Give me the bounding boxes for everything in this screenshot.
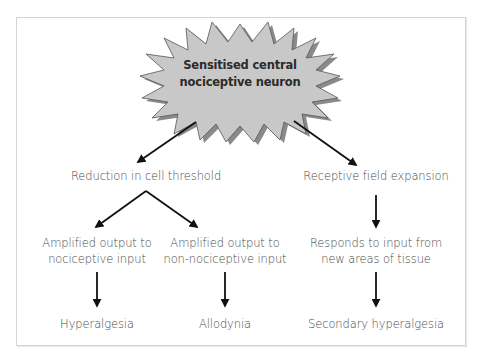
node-secondary-hyperalgesia: Secondary hyperalgesia (308, 316, 444, 332)
node-label-line-1: Responds to input from (310, 235, 442, 251)
root-node-label: Sensitised central nociceptive neuron (180, 57, 301, 91)
arrow-icon (294, 121, 356, 165)
root-line-1: Sensitised central (180, 57, 301, 74)
node-amplified-nociceptive: Amplified output to nociceptive input (42, 235, 151, 267)
node-label: Hyperalgesia (60, 316, 134, 332)
node-label-line-2: non-nociceptive input (163, 251, 286, 267)
arrow-icon (146, 191, 197, 227)
node-label: Secondary hyperalgesia (308, 316, 444, 332)
node-amplified-non-nociceptive: Amplified output to non-nociceptive inpu… (163, 235, 286, 267)
node-label-line-1: Amplified output to (42, 235, 151, 251)
arrow-icon (138, 122, 196, 162)
node-label-line-2: new areas of tissue (310, 251, 442, 267)
node-hyperalgesia: Hyperalgesia (60, 316, 134, 332)
node-responds-new-areas: Responds to input from new areas of tiss… (310, 235, 442, 267)
root-line-2: nociceptive neuron (180, 74, 301, 91)
node-label: Receptive field expansion (303, 168, 448, 184)
node-label: Reduction in cell threshold (71, 168, 221, 184)
node-reduction-threshold: Reduction in cell threshold (71, 168, 221, 184)
arrow-icon (96, 191, 146, 227)
node-label: Allodynia (199, 316, 251, 332)
node-label-line-1: Amplified output to (163, 235, 286, 251)
node-label-line-2: nociceptive input (42, 251, 151, 267)
node-receptive-field-expansion: Receptive field expansion (303, 168, 448, 184)
node-allodynia: Allodynia (199, 316, 251, 332)
